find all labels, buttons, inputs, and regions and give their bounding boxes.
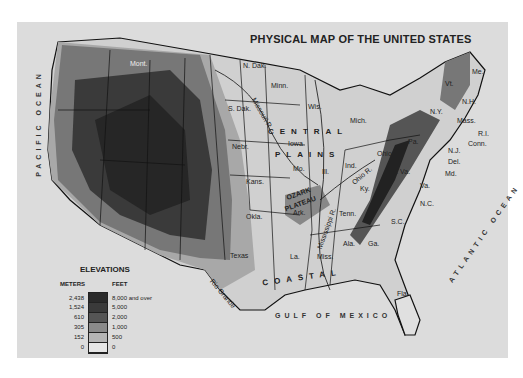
state-nj: N.J. — [448, 147, 460, 154]
legend-feet-3: 1,000 — [112, 324, 127, 330]
state-del: Del. — [448, 158, 460, 165]
state-iowa: Iowa — [288, 140, 303, 147]
state-la: La. — [290, 253, 300, 260]
state-sdak: S. Dak. — [228, 105, 251, 112]
legend-meters-1: 1,524 — [44, 304, 84, 310]
state-ny: N.Y. — [430, 108, 443, 115]
legend-meters-0: 2,438 — [44, 295, 84, 301]
state-tenn: Tenn. — [339, 210, 356, 217]
state-md: Md. — [445, 170, 457, 177]
legend-feet-2: 2,000 — [112, 314, 127, 320]
state-wva: W. Va. — [390, 168, 410, 175]
legend-feet-header: FEET — [112, 281, 127, 287]
state-pa: Pa. — [408, 138, 419, 145]
legend-feet-1: 5,000 — [112, 304, 127, 310]
state-ark: Ark. — [293, 209, 305, 216]
legend-title: ELEVATIONS — [80, 265, 130, 274]
pacific-ocean-label: PACIFIC OCEAN — [35, 70, 42, 177]
map-title: PHYSICAL MAP OF THE UNITED STATES — [250, 33, 472, 45]
state-kans: Kans. — [246, 178, 264, 185]
gulf-of-mexico-label: GULF OF MEXICO — [275, 312, 391, 319]
state-texas: Texas — [230, 252, 248, 259]
state-ill: Ill. — [322, 168, 329, 175]
state-okla: Okla. — [246, 213, 262, 220]
state-nebr: Nebr. — [232, 143, 249, 150]
legend-feet-0: 8,000 and over — [112, 295, 152, 301]
legend-meters-5: 0 — [44, 344, 84, 350]
state-sc: S.C. — [391, 218, 405, 225]
state-nc: N.C. — [420, 200, 434, 207]
state-mont: Mont. — [130, 60, 148, 67]
legend-meters-2: 610 — [44, 314, 84, 320]
legend-color-bar — [88, 292, 108, 354]
state-nh: N.H. — [462, 98, 476, 105]
state-ri: R.I. — [478, 130, 489, 137]
state-wis: Wis. — [308, 103, 322, 110]
state-conn: Conn. — [468, 140, 487, 147]
state-ala: Ala. — [343, 240, 355, 247]
state-mo: Mo. — [293, 165, 305, 172]
legend-feet-5: 0 — [112, 344, 115, 350]
state-fla: Fla. — [397, 290, 409, 297]
state-vt: Vt. — [445, 80, 454, 87]
state-mass: Mass. — [457, 117, 476, 124]
state-ga: Ga. — [368, 240, 379, 247]
state-ndak: N. Dak. — [243, 62, 266, 69]
state-ky: Ky. — [360, 185, 370, 192]
legend-feet-4: 500 — [112, 334, 122, 340]
elevation-legend: ELEVATIONS METERS FEET 2,438 1,524 610 3… — [30, 262, 150, 362]
florida — [395, 295, 420, 335]
legend-meters-header: METERS — [60, 281, 85, 287]
state-ohio: Ohio — [377, 150, 392, 157]
state-minn: Minn. — [271, 82, 288, 89]
state-me: Me. — [472, 68, 484, 75]
central-plains-label-1: CENTRAL — [268, 127, 348, 136]
legend-meters-4: 152 — [44, 334, 84, 340]
state-mich: Mich. — [350, 117, 367, 124]
central-plains-label-2: PLAINS — [275, 150, 340, 159]
state-miss: Miss. — [317, 253, 333, 260]
state-va: Va. — [420, 182, 430, 189]
state-ind: Ind. — [345, 162, 357, 169]
legend-meters-3: 305 — [44, 324, 84, 330]
